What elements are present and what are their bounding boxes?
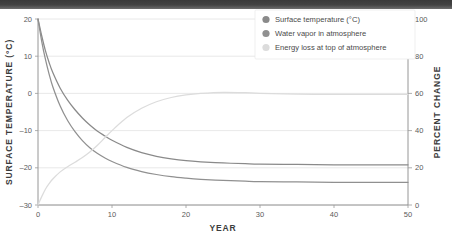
- y-axis-right-tick-label: 20: [415, 163, 423, 172]
- y-axis-right-tick-label: 100: [415, 15, 428, 24]
- x-axis-ticks: 01020304050: [36, 205, 412, 219]
- legend-marker: [262, 30, 269, 37]
- y-axis-right-tick-label: 0: [415, 201, 419, 210]
- chart-figure: 20100–10–20–30 100806040200 01020304050 …: [0, 0, 452, 237]
- y-axis-left-tick-label: 10: [24, 52, 32, 61]
- x-axis-tick-label: 50: [404, 210, 412, 219]
- legend-marker: [262, 16, 269, 23]
- legend-marker: [262, 44, 269, 51]
- y-axis-left-tick-label: –30: [19, 201, 32, 210]
- x-axis-tick-label: 10: [108, 210, 116, 219]
- x-axis-tick-label: 40: [330, 210, 338, 219]
- legend-label: Surface temperature (°C): [275, 15, 360, 24]
- y-axis-left-tick-label: –10: [19, 126, 32, 135]
- y-axis-right-title: PERCENT CHANGE: [432, 66, 442, 158]
- legend-label: Energy loss at top of atmosphere: [275, 43, 386, 52]
- y-axis-right-tick-label: 60: [415, 89, 423, 98]
- line-chart: 20100–10–20–30 100806040200 01020304050 …: [0, 9, 452, 237]
- x-axis-tick-label: 0: [36, 210, 40, 219]
- chart-legend: Surface temperature (°C)Water vapor in a…: [255, 10, 415, 59]
- y-axis-right-tick-label: 80: [415, 52, 423, 61]
- legend-label: Water vapor in atmosphere: [275, 29, 366, 38]
- y-axis-left-ticks: 20100–10–20–30: [19, 15, 38, 210]
- x-axis-tick-label: 20: [182, 210, 190, 219]
- x-axis-title: YEAR: [209, 223, 236, 233]
- series-line: [38, 92, 408, 205]
- y-axis-left-tick-label: –20: [19, 163, 32, 172]
- x-axis-tick-label: 30: [256, 210, 264, 219]
- header-band: [0, 0, 452, 9]
- y-axis-right-tick-label: 40: [415, 126, 423, 135]
- y-axis-left-tick-label: 20: [24, 15, 32, 24]
- y-axis-left-tick-label: 0: [28, 89, 32, 98]
- plot-wrapper: 20100–10–20–30 100806040200 01020304050 …: [0, 9, 452, 237]
- y-axis-left-title: SURFACE TEMPERATURE (°C): [4, 39, 14, 185]
